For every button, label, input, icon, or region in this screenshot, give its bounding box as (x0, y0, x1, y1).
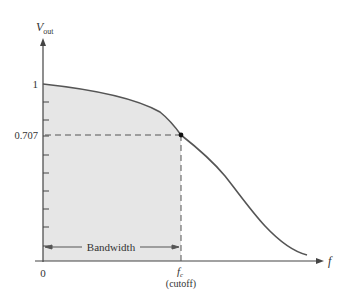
bandwidth-label: Bandwidth (87, 241, 136, 253)
y-axis-arrow-icon (40, 38, 46, 46)
x-cutoff-label: fc (177, 265, 184, 279)
y-axis-label: Vout (36, 20, 54, 36)
x-axis-label: f (328, 254, 333, 268)
x-axis-arrow-icon (316, 258, 324, 264)
y-tick-label-0707: 0.707 (14, 130, 38, 141)
x-cutoff-note: (cutoff) (166, 278, 196, 290)
x-origin-label: 0 (40, 267, 46, 279)
bandwidth-shade (43, 84, 181, 261)
cutoff-point (179, 133, 184, 138)
y-tick-label-1: 1 (33, 78, 39, 90)
frequency-response-diagram: Bandwidth Vout 1 0.707 0 fc (cutoff) f (0, 0, 346, 306)
